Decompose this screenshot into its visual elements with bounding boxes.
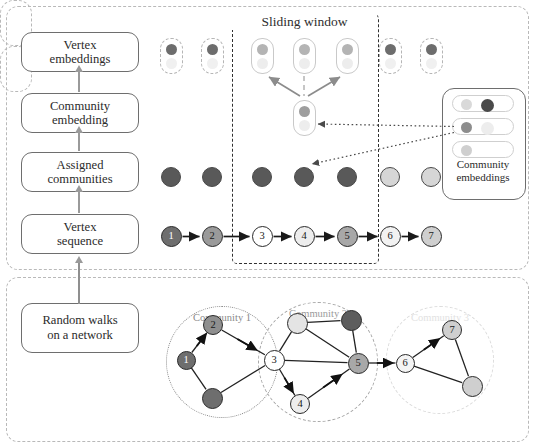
figure-root: Sliding window Vertex embeddings Communi… <box>0 0 535 447</box>
stage-label-line: embeddings <box>50 52 111 66</box>
vertex-embedding-pill <box>336 38 359 74</box>
ce-dot-right <box>481 99 494 112</box>
stage-label-line: communities <box>47 172 112 186</box>
network-node <box>462 376 483 397</box>
pipeline-arrow-up <box>78 132 80 151</box>
sequence-node: 3 <box>252 226 273 247</box>
pipeline-arrow-up <box>78 191 80 213</box>
stage-label-line: sequence <box>57 234 103 248</box>
embedding-dot-light <box>342 58 353 69</box>
sequence-node: 7 <box>421 226 442 247</box>
stage-label-line: Vertex <box>64 220 97 234</box>
vertex-embedding-pill <box>420 38 443 74</box>
embedding-dot-light <box>166 58 177 69</box>
vertex-embedding-pill <box>201 38 224 74</box>
stage-label-line: Random walks <box>42 313 117 327</box>
network-node-3: 3 <box>264 350 285 371</box>
network-node <box>202 388 223 409</box>
assigned-community-circle <box>380 167 400 187</box>
ce-dot-left <box>461 145 472 156</box>
sliding-window-label: Sliding window <box>232 13 377 30</box>
community-embedding-pill <box>452 118 514 135</box>
stage-label-line: embedding <box>52 113 108 127</box>
embedding-dot-dark <box>299 44 310 55</box>
embedding-dot-light <box>299 58 310 69</box>
sequence-node: 5 <box>337 226 358 247</box>
target-embedding-pill <box>293 100 316 136</box>
vertex-embedding-pill <box>251 38 274 74</box>
ce-dot-left <box>461 99 472 110</box>
community-embedding-pill <box>452 95 514 112</box>
stage-random-walks: Random walks on a network <box>21 303 139 353</box>
ce-dot-right <box>481 122 494 135</box>
stage-label-line: Vertex <box>64 38 97 52</box>
sequence-node: 6 <box>380 226 401 247</box>
network-node-4: 4 <box>290 394 310 414</box>
embedding-dot-dark <box>426 44 437 55</box>
embedding-dot-light <box>426 58 437 69</box>
vertex-embedding-pill <box>293 38 316 74</box>
pipeline-arrow-up <box>78 71 80 92</box>
network-node <box>287 313 308 334</box>
network-node <box>341 310 362 331</box>
vertex-embedding-pill <box>379 38 402 74</box>
network-node-1: 1 <box>177 351 196 370</box>
embedding-dot-dark <box>257 44 268 55</box>
network-node-6: 6 <box>396 354 415 373</box>
stage-vertex-sequence: Vertex sequence <box>21 214 139 254</box>
assigned-community-circle <box>337 167 357 187</box>
embedding-dot-light <box>299 120 310 131</box>
embedding-dot-dark <box>299 106 310 117</box>
sequence-node: 1 <box>161 226 182 247</box>
embedding-dot-light <box>257 58 268 69</box>
embedding-dot-light <box>385 58 396 69</box>
vertex-embedding-pill <box>160 38 183 74</box>
ce-dot-left <box>461 122 472 133</box>
stage-label-line: Community <box>50 99 110 113</box>
assigned-community-circle <box>294 167 314 187</box>
network-node-5: 5 <box>348 353 369 374</box>
embedding-dot-dark <box>166 44 177 55</box>
embedding-dot-dark <box>342 44 353 55</box>
embedding-dot-dark <box>385 44 396 55</box>
embedding-dot-dark <box>207 44 218 55</box>
assigned-community-circle <box>421 167 441 187</box>
ce-caption-line: embeddings <box>456 171 509 183</box>
assigned-community-circle <box>202 167 222 187</box>
network-node-2: 2 <box>203 315 223 335</box>
sequence-node: 2 <box>202 226 223 247</box>
sequence-node: 4 <box>294 226 315 247</box>
assigned-community-circle <box>161 167 181 187</box>
network-node-7: 7 <box>442 320 462 340</box>
assigned-community-circle <box>252 167 272 187</box>
embedding-dot-light <box>207 58 218 69</box>
pipeline-arrow-up <box>78 262 80 304</box>
stage-label-line: Assigned <box>57 158 104 172</box>
stage-label-line: on a network <box>47 328 113 342</box>
community-label-3: Community 3 <box>396 312 484 324</box>
ce-caption-line: Community <box>457 158 510 170</box>
community-embedding-pill <box>452 141 514 158</box>
community-embeddings-caption: Community embeddings <box>442 158 524 184</box>
